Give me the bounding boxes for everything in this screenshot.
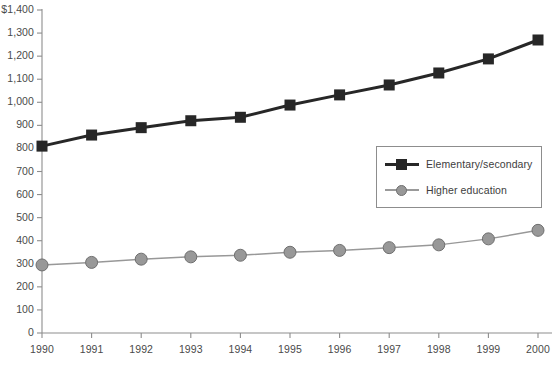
data-point-marker — [384, 79, 395, 90]
data-point-marker — [532, 224, 544, 236]
data-point-marker — [235, 112, 246, 123]
data-point-marker — [36, 259, 48, 271]
data-point-marker — [86, 256, 98, 268]
data-point-marker — [185, 251, 197, 263]
legend-entry-elementary-secondary: Elementary/secondary — [385, 155, 532, 173]
data-point-marker — [334, 244, 346, 256]
data-point-marker — [185, 115, 196, 126]
data-point-marker — [533, 34, 544, 45]
data-point-marker — [135, 253, 147, 265]
series-line-1 — [42, 40, 538, 146]
data-point-marker — [383, 242, 395, 254]
legend-label-elementary-secondary: Elementary/secondary — [426, 158, 532, 170]
data-point-marker — [433, 239, 445, 251]
data-point-marker — [285, 100, 296, 111]
data-point-marker — [433, 67, 444, 78]
data-point-marker — [482, 233, 494, 245]
data-point-marker — [284, 246, 296, 258]
data-point-marker — [234, 249, 246, 261]
line-chart: $1,4001,3001,2001,1001,00090080070060050… — [0, 0, 554, 366]
data-point-marker — [86, 130, 97, 141]
legend-label-higher-education: Higher education — [426, 184, 507, 196]
data-point-marker — [334, 89, 345, 100]
chart-legend: Elementary/secondary Higher education — [376, 146, 542, 208]
data-point-marker — [136, 122, 147, 133]
legend-swatch-square-icon — [385, 157, 419, 171]
legend-swatch-circle-icon — [385, 183, 419, 197]
data-point-marker — [37, 141, 48, 152]
legend-entry-higher-education: Higher education — [385, 181, 507, 199]
data-point-marker — [483, 53, 494, 64]
